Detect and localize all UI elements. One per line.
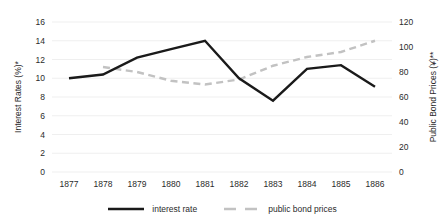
- legend-swatch-solid-icon: [107, 204, 145, 214]
- right-axis-tick: 80: [399, 67, 439, 77]
- gridlines: [52, 22, 392, 172]
- chart-legend: interest rate public bond prices: [0, 200, 444, 218]
- series-interest-rate: [69, 41, 375, 101]
- right-axis-tick: 100: [399, 42, 439, 52]
- legend-label-public-bond-prices: public bond prices: [268, 204, 337, 214]
- left-axis-tick: 0: [0, 167, 45, 177]
- chart-container: Interest Rates (%)* Public Bond Prices (…: [0, 0, 444, 223]
- left-axis-tick: 8: [0, 92, 45, 102]
- right-axis-tick: 60: [399, 92, 439, 102]
- right-axis-tick: 40: [399, 117, 439, 127]
- left-axis-tick: 12: [0, 55, 45, 65]
- legend-item-interest-rate[interactable]: interest rate: [107, 204, 197, 214]
- left-axis-tick: 2: [0, 148, 45, 158]
- plot-area: [52, 22, 392, 172]
- right-axis-tick: 0: [399, 167, 439, 177]
- left-axis-tick: 16: [0, 17, 45, 27]
- left-axis-tick: 10: [0, 73, 45, 83]
- right-axis-tick: 120: [399, 17, 439, 27]
- legend-item-public-bond-prices[interactable]: public bond prices: [223, 204, 337, 214]
- legend-label-interest-rate: interest rate: [152, 204, 197, 214]
- left-axis-tick: 6: [0, 111, 45, 121]
- left-axis-tick: 14: [0, 36, 45, 46]
- x-axis-tick: 1886: [355, 179, 395, 189]
- left-axis-tick: 4: [0, 130, 45, 140]
- right-axis-tick: 20: [399, 142, 439, 152]
- legend-swatch-dashed-icon: [223, 204, 261, 214]
